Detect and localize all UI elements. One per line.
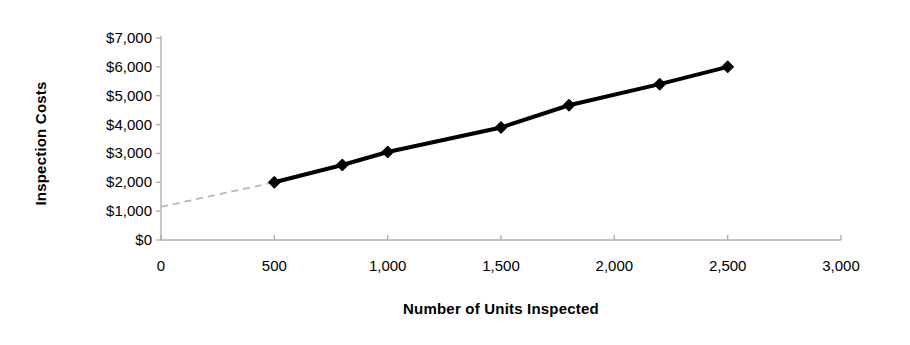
- plot-surface: [0, 0, 910, 345]
- data-point-marker: [382, 146, 394, 158]
- axis-tick-marks: [156, 38, 841, 240]
- dashed-extrapolation-line: [161, 182, 274, 207]
- data-point-markers: [268, 61, 733, 188]
- data-point-marker: [336, 159, 348, 171]
- axis-lines: [161, 36, 841, 240]
- data-point-marker: [654, 78, 666, 90]
- data-point-marker: [563, 99, 575, 111]
- data-point-marker: [495, 121, 507, 133]
- data-point-marker: [722, 61, 734, 73]
- data-point-marker: [268, 176, 280, 188]
- inspection-costs-chart: Inspection Costs Number of Units Inspect…: [0, 0, 910, 345]
